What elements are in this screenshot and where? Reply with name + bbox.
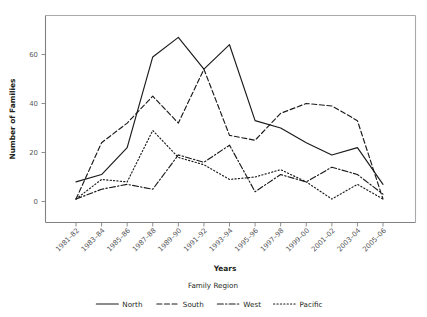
y-tick-60: 60 bbox=[29, 51, 45, 59]
x-tick-label: 1981–82 bbox=[54, 227, 81, 254]
y-axis: 0 20 40 60 Number of Families bbox=[8, 51, 46, 206]
x-tick-label: 1993–94 bbox=[208, 227, 235, 254]
x-tick-label: 2005–06 bbox=[361, 227, 388, 254]
y-tick-label: 60 bbox=[29, 51, 38, 59]
series-line-pacific bbox=[76, 130, 383, 199]
x-tick-label: 1997–98 bbox=[259, 227, 286, 254]
x-tick-label: 1995–96 bbox=[233, 227, 260, 254]
y-tick-label: 0 bbox=[34, 198, 38, 206]
x-tick-label: 2003–04 bbox=[336, 227, 363, 254]
legend-label-south: South bbox=[183, 300, 204, 309]
x-axis: 1981–821983–841985–861987–881989–901991–… bbox=[54, 223, 388, 254]
x-tick-label: 2001–02 bbox=[310, 227, 337, 254]
legend-title: Family Region bbox=[188, 281, 238, 290]
y-tick-label: 20 bbox=[29, 149, 38, 157]
series-line-north bbox=[76, 37, 383, 184]
y-tick-label: 40 bbox=[29, 100, 38, 108]
y-tick-40: 40 bbox=[29, 100, 45, 108]
legend-label-pacific: Pacific bbox=[300, 300, 323, 309]
x-tick-label: 1983–84 bbox=[80, 227, 107, 254]
x-tick-label: 1989–90 bbox=[157, 227, 184, 254]
x-tick-label: 1985–86 bbox=[105, 227, 132, 254]
x-tick-label: 1987–88 bbox=[131, 227, 158, 254]
y-tick-20: 20 bbox=[29, 149, 45, 157]
x-tick-label: 1999–00 bbox=[284, 227, 311, 254]
legend: NorthSouthWestPacific bbox=[96, 300, 322, 309]
line-chart: 0 20 40 60 Number of Families 1981–82198… bbox=[0, 0, 427, 317]
y-tick-0: 0 bbox=[34, 198, 46, 206]
series-group bbox=[76, 37, 383, 199]
legend-label-north: North bbox=[122, 300, 142, 309]
y-axis-title: Number of Families bbox=[8, 78, 17, 159]
chart-figure: 0 20 40 60 Number of Families 1981–82198… bbox=[0, 0, 427, 317]
x-tick-label: 1991–92 bbox=[182, 227, 209, 254]
x-axis-title: Years bbox=[213, 264, 237, 273]
legend-label-west: West bbox=[243, 300, 261, 309]
